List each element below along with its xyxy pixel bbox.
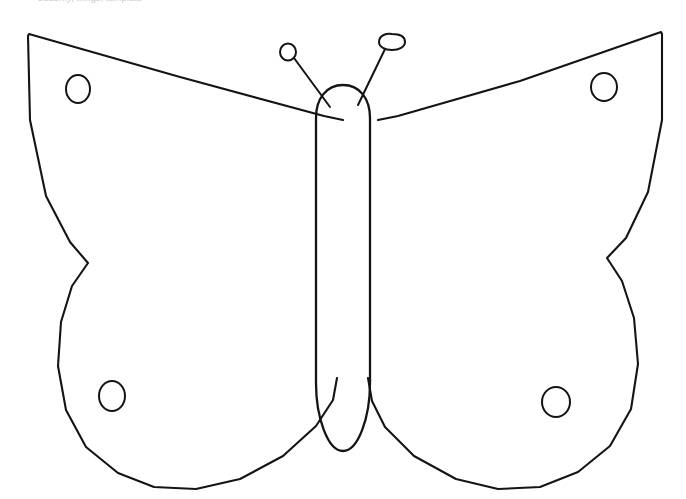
right-antenna-stalk <box>358 47 386 105</box>
butterfly-body-outline <box>316 85 370 451</box>
upper-left-spot <box>66 75 90 103</box>
lower-left-spot <box>99 381 125 411</box>
butterfly-line-drawing <box>0 0 686 499</box>
upper-right-spot <box>591 73 617 101</box>
right-antenna-knob-icon <box>379 34 405 50</box>
wings-group <box>28 32 662 489</box>
wing-spots-group <box>66 73 617 417</box>
antennae-group <box>280 34 405 107</box>
right-wing-outline <box>368 32 662 489</box>
lower-right-spot <box>542 387 570 417</box>
page-canvas: butterfly, wings, template <box>0 0 686 499</box>
left-antenna-stalk <box>294 58 330 107</box>
left-antenna-knob-icon <box>280 44 296 61</box>
